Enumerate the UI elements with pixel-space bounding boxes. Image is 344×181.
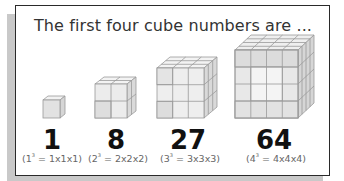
cube-value-27: 27 (170, 125, 206, 155)
cube-2x2x2 (95, 77, 136, 118)
cube-value-8: 8 (107, 125, 125, 155)
cube-caption-64: (43 = 4x4x4) (246, 152, 306, 164)
cube-4x4x4 (235, 35, 314, 118)
cube-value-64: 64 (256, 125, 292, 155)
cube-value-1: 1 (43, 125, 61, 155)
cube-caption-27: (33 = 3x3x3) (160, 152, 220, 164)
cube-caption-8: (23 = 2x2x2) (88, 152, 148, 164)
cube-caption-1: (13 = 1x1x1) (22, 152, 82, 164)
cube-1x1x1 (43, 96, 65, 118)
cube-3x3x3 (157, 57, 217, 118)
